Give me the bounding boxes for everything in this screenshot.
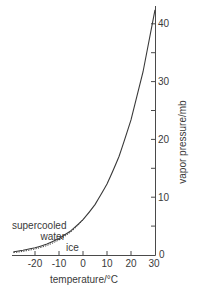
vapor-pressure-chart: -20 -10 0 10 20 30 0 10 20 30 40 tempera… [0, 0, 198, 297]
x-tick-label: -20 [28, 258, 43, 269]
y-tick-label: 40 [158, 18, 170, 29]
y-tick-label: 20 [158, 134, 170, 145]
x-axis-title: temperature/°C [50, 274, 118, 285]
x-tick-label: 20 [125, 258, 137, 269]
y-axis-title: vapor pressure/mb [177, 100, 188, 184]
x-tick-label: 0 [80, 258, 86, 269]
y-tick-label: 0 [159, 249, 165, 260]
supercooled-water-curve [13, 10, 155, 252]
x-ticks [35, 251, 131, 255]
x-tick-label: 10 [101, 258, 113, 269]
ice-label: ice [66, 242, 79, 253]
y-tick-label: 30 [158, 76, 170, 87]
y-ticks [151, 24, 156, 226]
supercooled-water-label: supercooled [12, 220, 66, 231]
y-tick-label: 10 [158, 192, 170, 203]
supercooled-water-label: water [40, 231, 66, 242]
x-tick-label: -10 [52, 258, 67, 269]
